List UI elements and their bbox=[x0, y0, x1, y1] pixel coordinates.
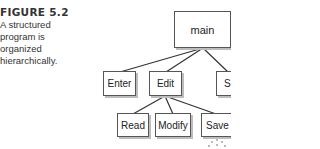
node-read: Read bbox=[117, 113, 149, 137]
node-main: main bbox=[174, 11, 231, 48]
node-modify: Modify bbox=[155, 113, 191, 137]
sparkle-marks bbox=[208, 139, 225, 146]
node-edit: Edit bbox=[149, 71, 182, 96]
node-enter: Enter bbox=[103, 71, 136, 96]
node-save: Save bbox=[201, 113, 231, 137]
node-s: S bbox=[216, 71, 231, 96]
